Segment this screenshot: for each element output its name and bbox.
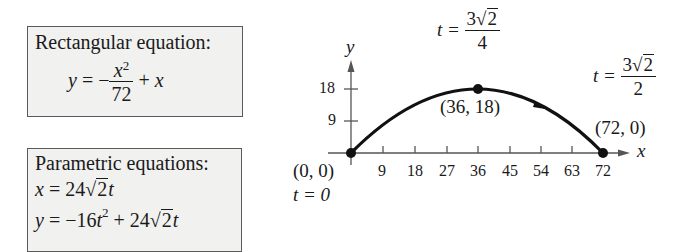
- x-ticks: [383, 146, 572, 153]
- x-tick-label-63: 63: [564, 162, 580, 180]
- x-tick-label-27: 27: [439, 162, 455, 180]
- start-point-label: (0, 0): [293, 160, 334, 182]
- x-tick-label-9: 9: [378, 162, 386, 180]
- x-tick-label-36: 36: [470, 162, 486, 180]
- peak-point-label: (36, 18): [440, 96, 500, 118]
- y-axis-arrow-icon: [348, 60, 355, 72]
- x-tick-label-45: 45: [502, 162, 518, 180]
- peak-point-t-label: t = 3√24: [437, 8, 500, 55]
- y-tick-label-18: 18: [319, 79, 335, 97]
- end-point-label: (72, 0): [595, 117, 646, 139]
- x-axis-arrow-icon: [618, 150, 630, 157]
- y-axis-label: y: [346, 36, 354, 58]
- x-axis-label: x: [637, 140, 645, 162]
- y-tick-label-9: 9: [328, 111, 336, 129]
- x-tick-label-72: 72: [595, 162, 611, 180]
- peak-point: [473, 84, 483, 94]
- start-point-t-label: t = 0: [293, 184, 330, 206]
- end-point: [598, 148, 608, 158]
- start-point: [346, 148, 356, 158]
- x-tick-label-54: 54: [533, 162, 549, 180]
- x-tick-label-18: 18: [407, 162, 423, 180]
- end-point-t-label: t = 3√22: [593, 54, 656, 101]
